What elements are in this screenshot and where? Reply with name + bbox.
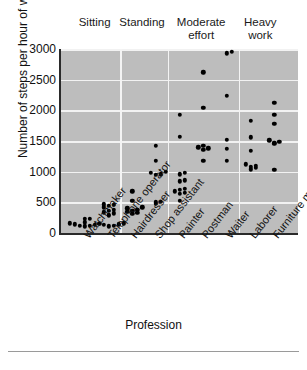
data-point — [201, 147, 205, 151]
data-point — [248, 149, 252, 153]
data-point — [196, 145, 200, 149]
group-separator — [120, 49, 122, 233]
gridline — [61, 141, 298, 143]
data-point — [177, 179, 181, 183]
group-header-moderate-effort: Moderate effort — [166, 16, 237, 41]
gridline — [61, 80, 298, 82]
data-point — [225, 93, 229, 97]
x-axis-title: Profession — [0, 318, 307, 332]
data-point — [83, 220, 87, 224]
group-separator — [239, 49, 241, 233]
data-point — [177, 135, 181, 139]
group-header-standing: Standing — [118, 16, 165, 29]
data-point — [272, 101, 276, 105]
group-header-sitting: Sitting — [71, 16, 118, 29]
chart-figure: SittingStandingModerate effortHeavy work… — [0, 0, 307, 370]
data-point — [78, 223, 82, 227]
data-point — [248, 119, 252, 123]
y-tick-label: 1000 — [10, 165, 56, 179]
data-point — [177, 172, 181, 176]
data-point — [225, 51, 229, 55]
y-tick-label: 500 — [10, 195, 56, 209]
data-point — [272, 112, 276, 116]
y-tick-label: 2500 — [10, 73, 56, 87]
data-point — [172, 189, 176, 193]
data-point — [206, 146, 210, 150]
data-point — [177, 112, 181, 116]
y-axis-ticks: 050010001500200025003000 — [6, 49, 56, 233]
data-point — [182, 171, 186, 175]
data-point — [182, 178, 186, 182]
group-header-heavy-work: Heavy work — [237, 16, 284, 41]
data-point — [154, 158, 158, 162]
data-point — [230, 50, 234, 54]
data-point — [277, 139, 281, 143]
data-point — [130, 189, 134, 193]
data-point — [68, 221, 72, 225]
data-point — [225, 147, 229, 151]
y-tick-label: 3000 — [10, 42, 56, 56]
y-tick-label: 1500 — [10, 134, 56, 148]
gridline — [61, 49, 298, 51]
data-point — [243, 162, 247, 166]
data-point — [73, 222, 77, 226]
group-separator — [168, 49, 170, 233]
y-tick-label: 2000 — [10, 103, 56, 117]
data-point — [201, 158, 205, 162]
data-point — [154, 144, 158, 148]
x-axis-ticks: WatchmakerTelephone operatorHairdresserS… — [0, 233, 307, 323]
data-point — [272, 122, 276, 126]
group-header-row: SittingStandingModerate effortHeavy work — [59, 16, 296, 48]
data-point — [225, 158, 229, 162]
data-point — [248, 135, 252, 139]
data-point — [201, 70, 205, 74]
footer-divider — [8, 351, 299, 352]
